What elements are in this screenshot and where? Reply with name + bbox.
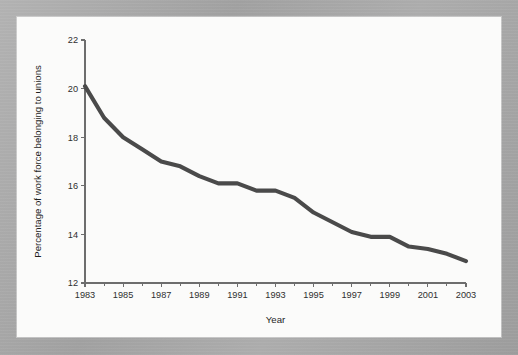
- x-tick-label: 2001: [418, 290, 438, 300]
- x-tick-label: 1987: [151, 290, 171, 300]
- x-tick-label: 1985: [113, 290, 133, 300]
- chart-canvas: 121416182022 198319851987198919911993199…: [17, 17, 501, 337]
- x-tick-label: 1999: [380, 290, 400, 300]
- y-tick-label: 20: [68, 84, 78, 94]
- x-tick-label: 1993: [265, 290, 285, 300]
- x-tick-label: 1995: [303, 290, 323, 300]
- figure-card: 121416182022 198319851987198919911993199…: [17, 17, 501, 337]
- y-tick-label: 18: [68, 133, 78, 143]
- x-tick-label: 1997: [341, 290, 361, 300]
- data-series-line: [85, 86, 466, 261]
- x-tick-label: 1989: [189, 290, 209, 300]
- line-chart: 121416182022 198319851987198919911993199…: [17, 17, 501, 337]
- x-tick-label: 1991: [227, 290, 247, 300]
- x-tick-label: 1983: [75, 290, 95, 300]
- y-axis-title: Percentage of work force belonging to un…: [32, 65, 43, 258]
- y-tick-label: 16: [68, 181, 78, 191]
- y-tick-label: 12: [68, 278, 78, 288]
- x-tick-label: 2003: [456, 290, 476, 300]
- y-axis: 121416182022: [68, 35, 85, 288]
- data-series-group: [85, 86, 466, 261]
- y-tick-label: 22: [68, 35, 78, 45]
- x-axis: 1983198519871989199119931995199719992001…: [75, 283, 476, 300]
- y-tick-label: 14: [68, 230, 78, 240]
- x-axis-title: Year: [266, 314, 286, 325]
